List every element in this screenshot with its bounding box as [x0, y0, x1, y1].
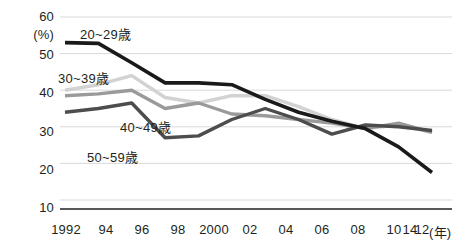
series-label-50-59: 50~59歳: [87, 147, 138, 166]
x-tick-label: 06: [305, 222, 339, 237]
x-tick-label: 96: [125, 222, 159, 237]
x-axis-unit: (年): [429, 222, 451, 241]
y-tick-label: 10: [20, 200, 54, 215]
y-axis-unit: (%): [14, 27, 54, 42]
series-label-40-49: 40~49歳: [120, 117, 171, 136]
x-tick-label: 02: [233, 222, 267, 237]
x-tick-label: 1992: [46, 222, 86, 237]
y-tick-label: 50: [20, 47, 54, 62]
series-label-30-39: 30~39歳: [58, 68, 109, 87]
series-label-20-29: 20~29歳: [80, 24, 131, 43]
gridlines: [60, 17, 452, 200]
x-tick-label: 08: [341, 222, 375, 237]
x-tick-label: 94: [89, 222, 123, 237]
chart-plot-area: [0, 0, 470, 246]
x-tick-label: 14: [393, 222, 427, 237]
x-tick-label: 04: [269, 222, 303, 237]
y-tick-label: 30: [20, 124, 54, 139]
y-tick-label: 60: [20, 9, 54, 24]
y-tick-label: 40: [20, 85, 54, 100]
x-tick-label: 2000: [190, 222, 238, 237]
y-tick-label: 20: [20, 162, 54, 177]
line-chart: 60 (%) 50 40 30 20 10 1992 94 96 98 2000…: [0, 0, 470, 246]
